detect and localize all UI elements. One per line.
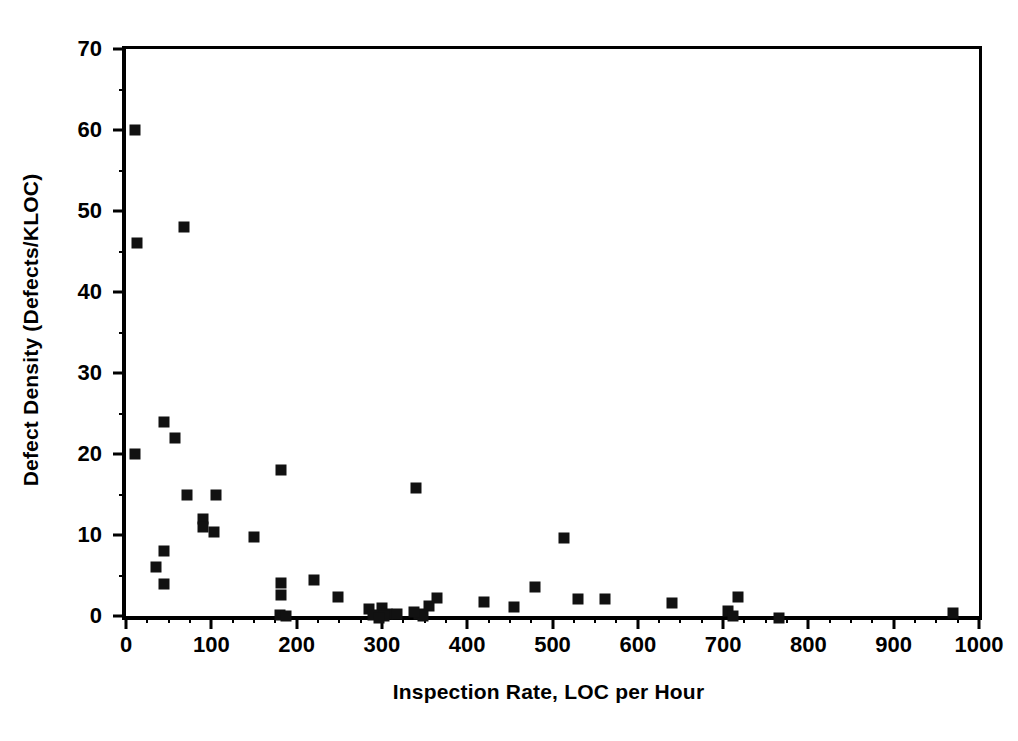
y-minor-tick — [119, 413, 126, 415]
y-minor-tick — [119, 332, 126, 334]
x-minor-tick — [850, 616, 852, 623]
data-point — [411, 483, 422, 494]
x-minor-tick — [189, 616, 191, 623]
data-point — [197, 521, 208, 532]
x-minor-tick — [786, 616, 788, 623]
data-point — [159, 578, 170, 589]
x-tick-label: 400 — [449, 634, 486, 656]
x-minor-tick — [253, 616, 255, 623]
data-point — [308, 575, 319, 586]
x-minor-tick — [594, 616, 596, 623]
x-minor-tick — [935, 616, 937, 623]
x-tick-label: 900 — [875, 634, 912, 656]
data-point — [723, 606, 734, 617]
x-minor-tick — [701, 616, 703, 623]
x-minor-tick — [488, 616, 490, 623]
x-minor-tick — [274, 616, 276, 623]
data-point — [208, 526, 219, 537]
x-major-tick — [807, 616, 810, 629]
y-major-tick — [113, 534, 126, 537]
data-point — [129, 125, 140, 136]
data-point — [276, 465, 287, 476]
x-major-tick — [636, 616, 639, 629]
data-point — [332, 591, 343, 602]
data-point — [728, 611, 739, 622]
data-point — [281, 611, 292, 622]
data-point — [159, 416, 170, 427]
x-tick-label: 800 — [790, 634, 827, 656]
y-axis-title: Defect Density (Defects/KLOC) — [14, 46, 48, 613]
data-point — [159, 546, 170, 557]
x-major-tick — [892, 616, 895, 629]
data-point — [530, 581, 541, 592]
x-minor-tick — [914, 616, 916, 623]
x-major-tick — [210, 616, 213, 629]
x-minor-tick — [679, 616, 681, 623]
data-point — [479, 597, 490, 608]
x-minor-tick — [829, 616, 831, 623]
x-minor-tick — [871, 616, 873, 623]
x-minor-tick — [317, 616, 319, 623]
x-major-tick — [125, 616, 128, 629]
data-point — [600, 593, 611, 604]
x-tick-label: 600 — [619, 634, 656, 656]
data-point — [248, 531, 259, 542]
x-major-tick — [295, 616, 298, 629]
y-major-tick — [113, 615, 126, 618]
y-major-tick — [113, 129, 126, 132]
y-major-tick — [113, 291, 126, 294]
data-point — [666, 598, 677, 609]
data-point — [150, 562, 161, 573]
data-point — [276, 577, 287, 588]
y-major-tick — [113, 210, 126, 213]
x-minor-tick — [445, 616, 447, 623]
x-tick-label: 500 — [534, 634, 571, 656]
y-tick-label: 30 — [78, 362, 102, 384]
data-point — [179, 222, 190, 233]
data-point — [376, 602, 387, 613]
x-tick-label: 0 — [120, 634, 132, 656]
scatter-plot-figure: Defect Density (Defects/KLOC) 0100200300… — [0, 0, 1018, 741]
y-tick-label: 40 — [78, 281, 102, 303]
data-points-layer — [126, 49, 979, 616]
x-minor-tick — [743, 616, 745, 623]
y-tick-label: 60 — [78, 119, 102, 141]
data-point — [182, 489, 193, 500]
x-tick-label: 300 — [364, 634, 401, 656]
x-minor-tick — [573, 616, 575, 623]
x-major-tick — [380, 616, 383, 629]
x-minor-tick — [360, 616, 362, 623]
x-minor-tick — [338, 616, 340, 623]
data-point — [413, 609, 424, 620]
x-minor-tick — [146, 616, 148, 623]
x-minor-tick — [509, 616, 511, 623]
y-major-tick — [113, 372, 126, 375]
x-tick-label: 200 — [278, 634, 315, 656]
x-minor-tick — [424, 616, 426, 623]
y-major-tick — [113, 48, 126, 51]
x-tick-label: 100 — [193, 634, 230, 656]
y-tick-label: 50 — [78, 200, 102, 222]
y-tick-label: 70 — [78, 38, 102, 60]
data-point — [733, 591, 744, 602]
y-tick-label: 10 — [78, 524, 102, 546]
x-major-tick — [466, 616, 469, 629]
data-point — [132, 238, 143, 249]
y-minor-tick — [119, 170, 126, 172]
data-point — [423, 601, 434, 612]
data-point — [197, 513, 208, 524]
y-tick-label: 20 — [78, 443, 102, 465]
x-minor-tick — [530, 616, 532, 623]
data-point — [392, 609, 403, 620]
data-point — [129, 449, 140, 460]
data-point — [210, 489, 221, 500]
x-axis-title: Inspection Rate, LOC per Hour — [122, 680, 975, 704]
x-major-tick — [551, 616, 554, 629]
y-axis-title-text: Defect Density (Defects/KLOC) — [19, 173, 43, 486]
x-minor-tick — [232, 616, 234, 623]
x-tick-label: 700 — [705, 634, 742, 656]
x-tick-label: 1000 — [955, 634, 1004, 656]
y-minor-tick — [119, 251, 126, 253]
y-minor-tick — [119, 89, 126, 91]
y-major-tick — [113, 453, 126, 456]
